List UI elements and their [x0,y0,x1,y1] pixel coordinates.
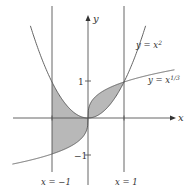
curve-label-parabola: y = x2 [135,39,162,51]
x-axis-arrow-icon [170,116,176,121]
tick-label-neg1: −1 [74,151,87,161]
tick-label-1: 1 [78,77,84,87]
line-label-x-1: x = 1 [115,177,138,187]
x-axis-label: x [178,112,184,123]
area-between-curves-diagram: y x 1 −1 y = x2 y = x1/3 x = −1 x = 1 [0,0,194,194]
y-axis-arrow-icon [86,15,91,21]
line-label-x-neg1: x = −1 [41,177,71,187]
y-axis-label: y [92,13,99,24]
curve-label-cube-root: y = x1/3 [147,74,180,86]
shaded-region-right [88,82,124,118]
